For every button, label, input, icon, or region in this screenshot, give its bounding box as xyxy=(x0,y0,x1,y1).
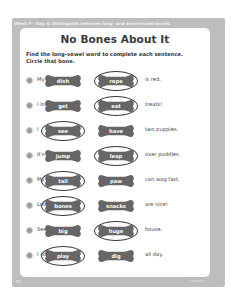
bone-option-1[interactable]: jump xyxy=(44,149,82,163)
sentence-row: It's fun tojumpleapover puddles. xyxy=(20,146,210,166)
answer-circle-mark xyxy=(94,221,138,241)
bone-word: jump xyxy=(44,149,82,163)
answer-circle-mark xyxy=(41,196,85,216)
sentence-end: all day. xyxy=(145,251,163,257)
sentence-row: See mybighugehouse. xyxy=(20,221,210,241)
sentence-start: I xyxy=(37,126,39,132)
item-number-bullet-icon xyxy=(26,152,33,159)
answer-circle-mark xyxy=(41,171,85,191)
instructions-line-2: Circle that bone. xyxy=(26,58,206,65)
sentence-row: Mydishropeis red. xyxy=(20,71,210,91)
lesson-header: Week 7 · Day 4: Distinguish between long… xyxy=(14,19,214,28)
item-number-bullet-icon xyxy=(26,77,33,84)
sentence-end: are nice! xyxy=(145,201,168,207)
bone-option-1[interactable]: big xyxy=(44,224,82,238)
bone-word: paw xyxy=(97,174,135,188)
sentence-end: is red. xyxy=(145,76,161,82)
sentence-end: two puppies. xyxy=(145,126,178,132)
sentence-row: I love togeteattreats! xyxy=(20,96,210,116)
answer-circle-mark xyxy=(94,96,138,116)
answer-circle-mark xyxy=(41,246,85,266)
bone-word: dig xyxy=(97,249,135,263)
sentence-end: treats! xyxy=(145,101,162,107)
bone-option-1[interactable]: get xyxy=(44,99,82,113)
answer-circle-mark xyxy=(94,146,138,166)
sentence-row: Iseehavetwo puppies. xyxy=(20,121,210,141)
worksheet-title: No Bones About It xyxy=(20,33,210,45)
bone-option-1[interactable]: dish xyxy=(44,74,82,88)
bone-option-2[interactable]: paw xyxy=(97,174,135,188)
item-number-bullet-icon xyxy=(26,127,33,134)
bone-option-2[interactable]: dig xyxy=(97,249,135,263)
sentence-row: Lots ofbonessnacksare nice! xyxy=(20,196,210,216)
sentence-end: over puddles. xyxy=(145,151,180,157)
instructions-line-1: Find the long-vowel word to complete eac… xyxy=(26,51,206,58)
sentence-end: house. xyxy=(145,226,162,232)
bone-option-2[interactable]: have xyxy=(97,124,135,138)
page-number: 90 xyxy=(16,279,21,284)
bone-word: snacks xyxy=(97,199,135,213)
bone-word: dish xyxy=(44,74,82,88)
item-number-bullet-icon xyxy=(26,252,33,259)
instructions: Find the long-vowel word to complete eac… xyxy=(26,51,206,65)
item-number-bullet-icon xyxy=(26,102,33,109)
answer-circle-mark xyxy=(94,71,138,91)
bone-option-2[interactable]: snacks xyxy=(97,199,135,213)
bone-word: have xyxy=(97,124,135,138)
sentence-row: Mytailpawcan wag fast. xyxy=(20,171,210,191)
publisher-credit: Scholastic xyxy=(190,279,205,283)
item-number-bullet-icon xyxy=(26,227,33,234)
item-number-bullet-icon xyxy=(26,202,33,209)
bone-word: get xyxy=(44,99,82,113)
sentence-row: I couldplaydigall day. xyxy=(20,246,210,266)
bone-word: big xyxy=(44,224,82,238)
item-number-bullet-icon xyxy=(26,177,33,184)
sentence-end: can wag fast. xyxy=(145,176,180,182)
answer-circle-mark xyxy=(41,121,85,141)
